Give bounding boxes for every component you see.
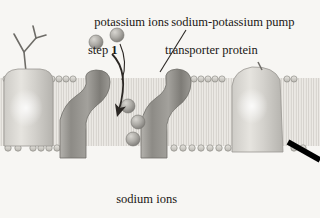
pump-label: sodium-potassium pump transporter protei… xyxy=(165,1,295,71)
pump-label-line2: transporter protein xyxy=(165,43,295,57)
sodium-ion xyxy=(126,132,140,146)
membrane-protein-left xyxy=(4,69,53,146)
pump-label-line1: sodium-potassium pump xyxy=(171,15,294,29)
sodium-ion xyxy=(131,115,145,129)
membrane-protein-right xyxy=(232,62,283,152)
potassium-ions-label: potassium ions step 1 xyxy=(88,1,169,71)
potassium-step-number: 1 xyxy=(111,43,117,57)
sodium-label-line1: sodium ions xyxy=(116,192,177,206)
sodium-ions-label: sodium ions step 2 xyxy=(110,178,177,218)
potassium-label-line1: potassium ions xyxy=(94,15,169,29)
sodium-ion xyxy=(121,99,135,113)
potassium-step-text: step xyxy=(88,43,111,57)
